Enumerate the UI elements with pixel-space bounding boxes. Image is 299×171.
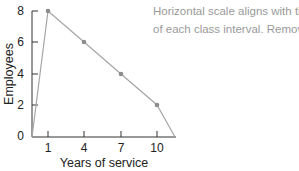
y-tick-label: 0 (17, 129, 24, 143)
x-tick-label: 4 (81, 141, 88, 155)
x-axis-title: Years of service (60, 156, 149, 170)
data-point (155, 103, 160, 108)
y-tick-label: 4 (17, 67, 24, 81)
y-tick-label: 6 (17, 35, 24, 49)
x-tick-label: 1 (45, 141, 52, 155)
data-point (119, 72, 124, 77)
y-axis-title: Employees (2, 43, 16, 105)
x-axis: 1 4 7 10 Years of service (32, 131, 176, 170)
x-tick-label: 10 (150, 141, 164, 155)
x-tick-label: 7 (118, 141, 125, 155)
data-point (46, 9, 51, 14)
y-tick-label: 2 (17, 98, 24, 112)
annotation-line-2: of each class interval. Remove bars. (153, 20, 299, 38)
y-tick-label: 8 (17, 4, 24, 18)
data-point (82, 40, 87, 45)
chart-annotation: Horizontal scale aligns with the midpoin… (153, 2, 299, 38)
annotation-line-1: Horizontal scale aligns with the midpoin… (153, 2, 299, 20)
y-axis: 8 6 4 2 0 Employees (2, 4, 38, 143)
